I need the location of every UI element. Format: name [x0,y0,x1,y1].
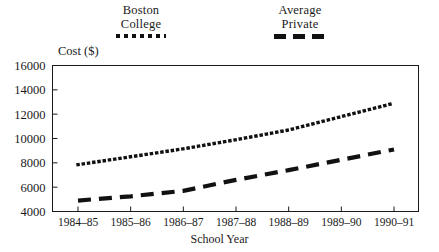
x-tick-label: 1987–88 [216,216,257,228]
y-tick-label: 6000 [21,181,46,195]
data-series-layer [78,103,394,200]
series-line-boston-college [78,103,394,164]
x-tick-label: 1988–89 [269,216,310,228]
x-tick-label: 1986–87 [163,216,204,228]
x-tick-label: 1989–90 [321,216,362,228]
x-axis-tick-labels: 1984–851985–861986–871987–881988–891989–… [58,216,415,228]
x-tick-label: 1990–91 [374,216,415,228]
x-axis-ticks [78,207,394,212]
y-tick-label: 16000 [14,59,45,73]
x-tick-label: 1985–86 [111,216,152,228]
y-tick-label: 4000 [21,205,46,219]
plot-area: 40006000800010000120001400016000 1984–85… [0,0,439,252]
x-axis-title: School Year [0,232,439,247]
y-tick-label: 10000 [14,132,45,146]
y-axis-ticks [53,66,58,212]
x-tick-label: 1984–85 [58,216,99,228]
y-axis-tick-labels: 40006000800010000120001400016000 [14,59,45,219]
chart-figure: Boston College Average Private Cost ($) … [0,0,439,252]
y-tick-label: 8000 [21,156,46,170]
y-tick-label: 14000 [14,83,45,97]
y-tick-label: 12000 [14,108,45,122]
